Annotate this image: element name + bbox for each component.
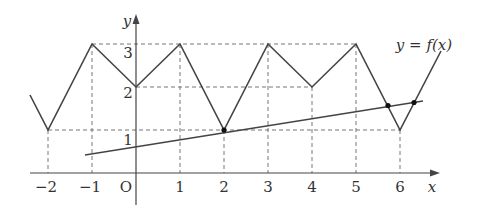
x-axis-arrow-icon xyxy=(430,170,440,177)
intersection-point xyxy=(221,127,226,132)
x-tick-label: 3 xyxy=(263,178,273,196)
x-tick-label: 2 xyxy=(219,178,229,196)
guide-lines xyxy=(48,44,400,173)
origin-label: O xyxy=(120,178,132,196)
x-tick-label: 6 xyxy=(395,178,405,196)
x-tick-label: 5 xyxy=(351,178,361,196)
y-axis-arrow-icon xyxy=(133,14,140,24)
x-axis-label: x xyxy=(428,178,437,196)
x-tick-label: 4 xyxy=(307,178,317,196)
y-tick-label: 3 xyxy=(123,44,133,62)
x-tick-label: −1 xyxy=(79,178,101,196)
x-tick-labels: −2 −1 O 1 2 3 4 5 6 x xyxy=(35,178,437,196)
intersection-point xyxy=(385,103,390,108)
y-tick-label: 1 xyxy=(123,131,133,149)
intersection-points xyxy=(221,100,416,133)
x-tick-label: 1 xyxy=(175,178,185,196)
y-tick-label: 2 xyxy=(123,84,133,102)
x-tick-label: −2 xyxy=(35,178,57,196)
intersection-point xyxy=(411,100,416,105)
y-tick-labels: 3 2 1 y xyxy=(122,12,133,149)
curve-label: y = f(x) xyxy=(395,36,452,54)
function-graph: −2 −1 O 1 2 3 4 5 6 x 3 2 1 y y = f(x) xyxy=(0,0,499,218)
y-axis-label: y xyxy=(122,12,132,30)
